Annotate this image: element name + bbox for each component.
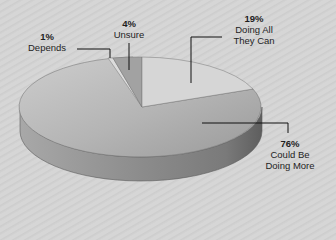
label-depends: 1% Depends (24, 31, 70, 53)
label-unsure-text: Unsure (108, 29, 150, 40)
label-doing-all-line2: They Can (222, 35, 286, 46)
label-could-be-more-line2: Doing More (257, 160, 323, 171)
label-could-be-more-line1: Could Be (257, 149, 323, 160)
label-unsure-pct: 4% (108, 18, 150, 29)
label-doing-all-pct: 19% (222, 13, 286, 24)
label-unsure: 4% Unsure (108, 18, 150, 40)
label-could-be-more-pct: 76% (257, 138, 323, 149)
label-doing-all: 19% Doing All They Can (222, 13, 286, 46)
label-doing-all-line1: Doing All (222, 24, 286, 35)
label-depends-pct: 1% (24, 31, 70, 42)
label-could-be-more: 76% Could Be Doing More (257, 138, 323, 171)
label-depends-text: Depends (24, 42, 70, 53)
leader-line-depends (77, 49, 110, 58)
